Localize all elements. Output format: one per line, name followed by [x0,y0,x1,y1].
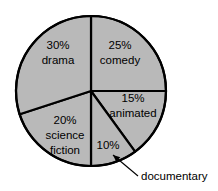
scifi-name-label-line2: fiction [50,144,80,156]
comedy-percent-label: 25% [108,39,131,51]
documentary-name-label: documentary [141,170,208,182]
pie-chart-figure: 25% comedy 15% animated 10% documentary … [0,0,218,191]
scifi-percent-label: 20% [53,114,76,126]
drama-name-label: drama [42,54,75,66]
animated-percent-label: 15% [121,92,144,104]
pie-chart-canvas: 25% comedy 15% animated 10% documentary … [0,0,218,191]
scifi-name-label-line1: science [46,129,85,141]
animated-name-label: animated [109,107,156,119]
comedy-name-label: comedy [100,54,141,66]
drama-percent-label: 30% [46,39,69,51]
documentary-percent-label: 10% [96,139,119,151]
